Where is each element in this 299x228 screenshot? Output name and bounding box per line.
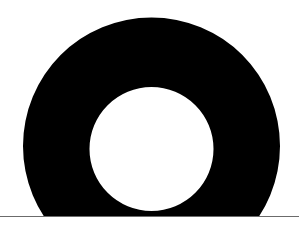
black-ring: [23, 17, 280, 216]
ring-shape: [0, 0, 299, 216]
ground-line: [0, 216, 299, 217]
ring-scene: [0, 0, 299, 228]
ring-clip-area: [0, 0, 299, 216]
